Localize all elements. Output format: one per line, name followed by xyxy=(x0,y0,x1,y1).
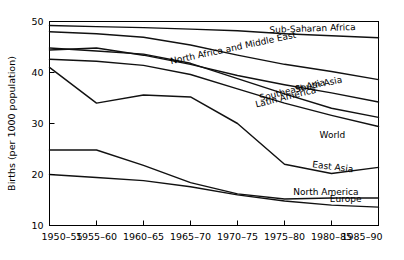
chart-canvas: 1020304050 1950–551955–601960–651965–701… xyxy=(0,0,404,260)
x-tick-label: 1965–70 xyxy=(170,231,211,242)
y-axis-title: Births (per 1000 population) xyxy=(6,56,17,191)
series-label-world: World xyxy=(320,130,346,140)
x-tick-label: 1975–80 xyxy=(264,231,305,242)
y-tick-label: 30 xyxy=(31,118,43,129)
x-tick-labels: 1950–551955–601960–651965–701970–751975–… xyxy=(42,231,383,242)
y-tick-labels: 1020304050 xyxy=(31,16,43,231)
y-tick-label: 10 xyxy=(31,220,43,231)
births-per-1000-line-chart: 1020304050 1950–551955–601960–651965–701… xyxy=(0,0,404,260)
x-tick-label: 1970–75 xyxy=(217,231,258,242)
y-axis-title-text: Births (per 1000 population) xyxy=(6,56,17,191)
x-tick-label: 1985–90 xyxy=(341,231,382,242)
y-tick-label: 20 xyxy=(31,169,43,180)
x-tick-label: 1960–65 xyxy=(123,231,164,242)
y-tick-label: 40 xyxy=(31,67,43,78)
y-tick-label: 50 xyxy=(31,16,43,27)
series-label-europe: Europe xyxy=(330,194,362,204)
x-tick-label: 1955–60 xyxy=(76,231,117,242)
